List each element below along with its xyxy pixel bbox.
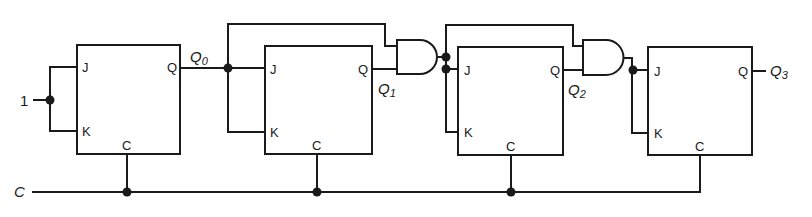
ff3-pin-j: J <box>654 64 661 79</box>
clock-junction-ff1 <box>313 188 322 197</box>
clock-junction-ff2 <box>507 188 516 197</box>
input-junction <box>46 96 55 105</box>
clock-junction-ff0 <box>123 188 132 197</box>
q3-label: Q3 <box>770 62 789 81</box>
ff0-pin-j: J <box>82 60 89 75</box>
ff3-pin-c: C <box>695 139 704 154</box>
q0-junction <box>224 64 233 73</box>
ff1-pin-k: K <box>270 125 279 140</box>
and1-body <box>397 40 437 74</box>
ff1-pin-c: C <box>312 138 321 153</box>
and2-to-ff3-k <box>632 70 648 133</box>
and2-body <box>583 40 623 75</box>
flip-flop-3: J K Q C Q3 <box>648 47 789 155</box>
q0-to-ff1-k <box>228 68 265 132</box>
input-one-label: 1 <box>20 92 28 109</box>
flip-flop-2: J K Q C Q2 <box>458 47 586 155</box>
clock-label: C <box>14 183 25 200</box>
clock-bus: C <box>14 154 700 200</box>
ff1-pin-q: Q <box>358 62 368 77</box>
ff2-pin-j: J <box>464 63 471 78</box>
ff3-pin-k: K <box>654 126 663 141</box>
flip-flop-1: J K Q C Q1 <box>265 46 397 154</box>
q2-label: Q2 <box>568 81 586 100</box>
ff0-pin-c: C <box>122 138 131 153</box>
ff0-pin-k: K <box>82 124 91 139</box>
flip-flop-0: J K Q C Q0 <box>77 45 209 154</box>
and1-out-junction <box>442 53 451 62</box>
ff2-pin-q: Q <box>550 63 560 78</box>
ff0-pin-q: Q <box>167 60 177 75</box>
ff2-pin-c: C <box>506 139 515 154</box>
ff3-pin-q: Q <box>738 64 748 79</box>
ff3-jk-junction <box>629 66 638 75</box>
jk-counter-diagram: C 1 J K Q C Q0 J K Q C Q1 <box>0 0 812 217</box>
ff2-jk-junction <box>442 65 451 74</box>
clock-line <box>32 155 700 192</box>
input-logic-one: 1 <box>20 67 77 131</box>
and-gate-2 <box>583 40 648 133</box>
ff1-pin-j: J <box>270 62 277 77</box>
q1-label: Q1 <box>378 80 396 99</box>
q0-label: Q0 <box>190 48 209 67</box>
ff2-pin-k: K <box>464 125 473 140</box>
and1-to-ff2-k <box>446 69 458 132</box>
